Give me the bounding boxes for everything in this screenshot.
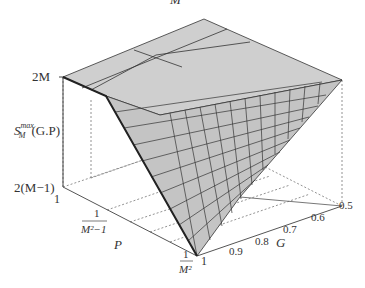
g-tick-0.9: 0.9 <box>229 245 243 257</box>
top-label: M <box>169 0 182 7</box>
z-tick-2m: 2M <box>32 69 51 84</box>
z-tick-2m-1: 2(M−1) <box>14 180 55 195</box>
p-tick-3-den: M² <box>178 263 192 275</box>
g-tick-0.8: 0.8 <box>255 235 269 247</box>
surface-plot: M <box>0 0 365 288</box>
g-tick-0.5: 0.5 <box>339 199 353 211</box>
g-tick-1: 1 <box>201 254 207 268</box>
g-tick-0.7: 0.7 <box>283 223 297 235</box>
p-tick-2-num: 1 <box>94 207 100 219</box>
p-tick-3-num: 1 <box>183 248 189 260</box>
p-tick-1: 1 <box>54 192 60 206</box>
g-tick-0.6: 0.6 <box>311 211 325 223</box>
p-axis-label: P <box>113 237 122 252</box>
z-axis-label: SmaxM(G.P) <box>14 121 60 140</box>
g-axis-label: G <box>276 235 286 250</box>
p-tick-2-den: M²−1 <box>80 223 106 235</box>
